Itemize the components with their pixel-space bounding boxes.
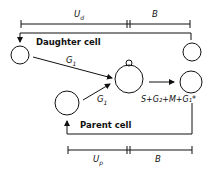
right-cell-circle — [180, 71, 202, 93]
cell-cycle-diagram — [0, 0, 209, 173]
center-cell-circle — [115, 65, 143, 93]
b-bottom-label: B — [155, 154, 161, 164]
parent-cell-circle — [55, 91, 79, 115]
daughter-cell-label: Daughter cell — [36, 37, 101, 47]
phase-label: S+G₂+M+G₁* — [141, 95, 196, 104]
g1-top-label: G1 — [66, 55, 76, 67]
g1-bottom-label: G1 — [97, 94, 107, 106]
ud-label: Ud — [74, 9, 84, 21]
budding-cell-circle — [183, 43, 201, 61]
b-top-label: B — [152, 9, 158, 19]
parent-cell-label: Parent cell — [80, 120, 131, 130]
up-label: Up — [93, 154, 103, 166]
daughter-cell-circle — [11, 46, 29, 64]
